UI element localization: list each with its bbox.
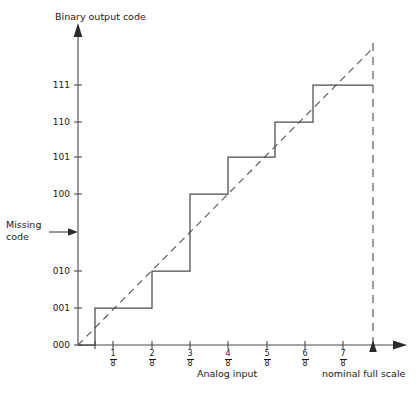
nominal-full-scale-marker [369, 42, 377, 352]
y-tick-label-000: 000 [44, 340, 70, 350]
x-tick-denominator-6: 8 [297, 360, 313, 368]
x-tick-numerator-1: 1 [105, 350, 121, 358]
x-tick-numerator-4: 4 [220, 350, 236, 358]
x-tick-numerator-7: 7 [335, 350, 351, 358]
x-tick-label-2-8: 2 8 [144, 350, 160, 368]
y-tick-label-100: 100 [44, 189, 70, 199]
x-tick-denominator-2: 8 [144, 360, 160, 368]
y-tick-label-001: 001 [44, 303, 70, 313]
x-tick-label-5-8: 5 8 [259, 350, 275, 368]
x-axis [78, 341, 407, 350]
y-axis [74, 23, 83, 345]
x-tick-label-3-8: 3 8 [182, 350, 198, 368]
missing-code-annotation: Missing code [6, 219, 41, 243]
x-tick-numerator-6: 6 [297, 350, 313, 358]
adc-transfer-function-figure: - - - - - - [0, 0, 419, 394]
x-tick-numerator-5: 5 [259, 350, 275, 358]
x-tick-numerator-2: 2 [144, 350, 160, 358]
x-tick-denominator-4: 8 [220, 360, 236, 368]
y-tick-label-010: 010 [44, 266, 70, 276]
x-tick-label-1-8: 1 8 [105, 350, 121, 368]
y-axis-title: Binary output code [55, 12, 146, 23]
x-tick-denominator-7: 8 [335, 360, 351, 368]
x-tick-denominator-1: 8 [105, 360, 121, 368]
x-axis-title: Analog input [197, 369, 257, 380]
missing-code-arrow-icon [49, 228, 78, 236]
actual-staircase-line [78, 85, 373, 345]
x-tick-label-7-8: 7 8 [335, 350, 351, 368]
x-tick-denominator-5: 8 [259, 360, 275, 368]
ideal-transfer-line [78, 48, 373, 345]
y-tick-label-111: 111 [44, 80, 70, 90]
missing-code-line-2: code [6, 231, 29, 242]
x-tick-label-6-8: 6 8 [297, 350, 313, 368]
nominal-full-scale-label: nominal full scale [322, 369, 405, 380]
x-tick-label-4-8: 4 8 [220, 350, 236, 368]
x-tick-numerator-3: 3 [182, 350, 198, 358]
y-tick-label-110: 110 [44, 117, 70, 127]
missing-code-line-1: Missing [6, 219, 41, 230]
y-tick-label-101: 101 [44, 152, 70, 162]
x-tick-denominator-3: 8 [182, 360, 198, 368]
